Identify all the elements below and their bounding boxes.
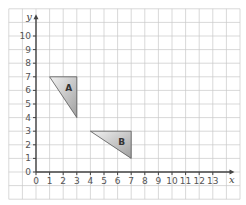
y-tick-label: 6 [25, 85, 31, 95]
y-tick-label: 7 [25, 72, 31, 82]
y-axis-arrow-icon [34, 14, 39, 19]
y-tick-label: 10 [20, 31, 32, 41]
x-tick-label: 6 [115, 176, 121, 186]
y-tick-label: 2 [25, 140, 31, 150]
y-tick-label: 1 [25, 153, 31, 163]
x-tick-label: 10 [166, 176, 178, 186]
coordinate-grid: AB 012345678910111213012345678910xy [0, 0, 246, 205]
x-tick-label: 0 [33, 176, 39, 186]
y-tick-label: 8 [25, 58, 31, 68]
y-tick-label: 9 [25, 45, 31, 55]
tick-labels: 012345678910111213012345678910xy [20, 11, 235, 186]
shape-label-a: A [65, 83, 72, 93]
x-tick-label: 7 [128, 176, 134, 186]
x-tick-label: 13 [207, 176, 218, 186]
x-tick-label: 2 [60, 176, 66, 186]
y-tick-label: 4 [25, 113, 31, 123]
y-tick-label: 3 [25, 126, 31, 136]
x-tick-label: 5 [101, 176, 107, 186]
x-tick-label: 11 [180, 176, 191, 186]
grid-lines [9, 9, 240, 199]
x-tick-label: 1 [47, 176, 53, 186]
x-tick-label: 3 [74, 176, 80, 186]
x-tick-label: 12 [193, 176, 204, 186]
x-axis-label: x [229, 174, 235, 185]
x-tick-label: 4 [88, 176, 94, 186]
y-tick-label: 0 [25, 167, 31, 177]
x-tick-label: 8 [142, 176, 148, 186]
y-tick-label: 5 [25, 99, 31, 109]
shape-label-b: B [118, 137, 125, 147]
x-tick-label: 9 [156, 176, 162, 186]
y-axis-label: y [25, 11, 32, 22]
